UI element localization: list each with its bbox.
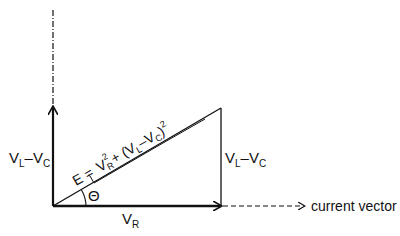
impedance-voltage-hypotenuse: [53, 108, 221, 206]
phasor-diagram: VL–VC VL–VC VR Θ current vector E =VR2+ …: [0, 0, 400, 236]
svg-text:E =VR2+ (VL–VC)2: E =VR2+ (VL–VC)2: [68, 118, 173, 191]
current-vector-label: current vector: [311, 198, 397, 214]
resistive-label: VR: [122, 210, 139, 230]
right-reactive-label: VL–VC: [225, 149, 266, 169]
hypotenuse-equation: E =VR2+ (VL–VC)2: [68, 118, 173, 191]
angle-label: Θ: [88, 187, 100, 204]
angle-arc: [82, 190, 87, 206]
left-reactive-label: VL–VC: [9, 149, 50, 169]
